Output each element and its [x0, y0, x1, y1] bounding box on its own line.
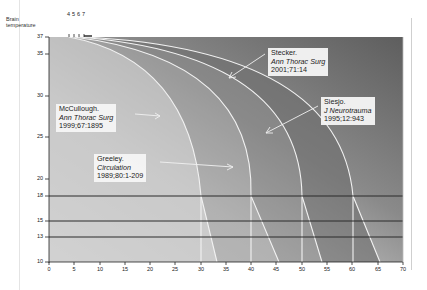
callout-siesjo: Siesjo. J Neurotrauma 1995;12:943	[321, 97, 375, 125]
callout-greeley: Greeley. Circulation 1989;80:1-209	[94, 154, 146, 182]
x-tick-label: 10	[93, 266, 107, 272]
x-tick-label: 0	[42, 266, 56, 272]
y-tick-label: 18	[27, 192, 43, 198]
x-tick-label: 30	[194, 266, 208, 272]
x-tick-label: 35	[219, 266, 233, 272]
y-axis-title-line2: temperature	[6, 22, 36, 28]
y-tick-label: 35	[27, 50, 43, 56]
y-tick-label: 15	[27, 217, 43, 223]
x-tick-label: 70	[396, 266, 410, 272]
y-tick-label: 30	[27, 92, 43, 98]
callout-citation: 1989;80:1-209	[97, 172, 143, 181]
y-tick-label: 20	[27, 175, 43, 181]
callout-citation: 1995;12:943	[324, 115, 372, 124]
y-tick-label: 10	[27, 258, 43, 264]
top-curve-label: 7	[82, 11, 85, 17]
x-tick-label: 15	[118, 266, 132, 272]
chart-plot	[0, 0, 427, 290]
x-tick-label: 25	[168, 266, 182, 272]
x-tick-label: 55	[320, 266, 334, 272]
x-tick-label: 50	[295, 266, 309, 272]
x-tick-label: 20	[143, 266, 157, 272]
callout-citation: 1999;67:1895	[59, 122, 113, 131]
x-tick-label: 5	[67, 266, 81, 272]
x-tick-label: 40	[244, 266, 258, 272]
top-curve-label: 4	[67, 11, 70, 17]
y-tick-label: 37	[27, 33, 43, 39]
x-tick-label: 65	[371, 266, 385, 272]
callout-citation: 2001;71:14	[271, 66, 325, 75]
x-tick-label: 60	[345, 266, 359, 272]
callout-mccullough: McCullough. Ann Thorac Surg 1999;67:1895	[56, 104, 116, 132]
top-curve-label: 5	[72, 11, 75, 17]
top-curve-label: 6	[77, 11, 80, 17]
y-tick-label: 25	[27, 133, 43, 139]
y-tick-label: 13	[27, 233, 43, 239]
x-tick-label: 45	[269, 266, 283, 272]
callout-stecker: Stecker. Ann Thorac Surg 2001;71:14	[268, 48, 328, 76]
